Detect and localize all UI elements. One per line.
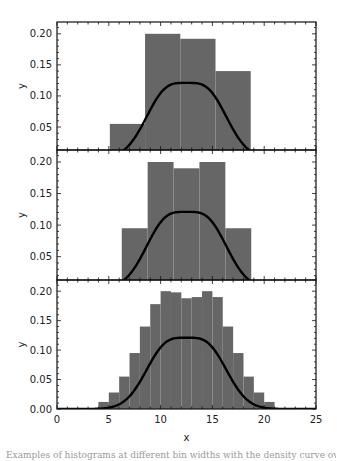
histogram-bar — [171, 292, 181, 411]
x-tick-label: 0 — [54, 414, 60, 425]
histogram-bar — [181, 298, 191, 411]
y-tick-label: 0.05 — [30, 122, 52, 133]
histogram-figure: 0.050.100.150.20y0.050.100.150.20y0.000.… — [0, 0, 337, 461]
y-axis-label: y — [16, 83, 27, 89]
histogram-bar — [216, 71, 251, 152]
x-tick-label: 10 — [154, 414, 167, 425]
histogram-bars — [110, 34, 251, 152]
y-tick-label: 0.15 — [30, 188, 52, 199]
histogram-bar — [225, 228, 251, 282]
y-axis-label: y — [16, 212, 27, 218]
y-tick-label: 0.05 — [30, 251, 52, 262]
histogram-bars — [98, 291, 274, 411]
figure-caption: Examples of histograms at different bin … — [6, 450, 336, 461]
histogram-bar — [119, 377, 129, 411]
histogram-bar — [202, 291, 212, 411]
y-tick-label: 0.20 — [30, 156, 52, 167]
histogram-bar — [130, 353, 140, 411]
histogram-bar — [122, 228, 148, 282]
histogram-bar — [98, 402, 108, 411]
y-axis-label: y — [16, 341, 27, 347]
x-axis-label: x — [184, 432, 190, 443]
x-tick-label: 15 — [206, 414, 219, 425]
y-tick-label: 0.10 — [30, 220, 52, 231]
y-tick-label: 0.15 — [30, 315, 52, 326]
y-tick-label: 0.10 — [30, 345, 52, 356]
histogram-bar — [233, 353, 243, 411]
y-tick-label: 0.20 — [30, 28, 52, 39]
histogram-bar — [264, 402, 274, 411]
x-tick-label: 20 — [258, 414, 271, 425]
y-tick-label: 0.20 — [30, 286, 52, 297]
y-tick-label: 0.00 — [30, 404, 52, 415]
histogram-bar — [174, 168, 200, 282]
histogram-bar — [161, 291, 171, 411]
histogram-bar — [192, 297, 202, 411]
y-tick-label: 0.05 — [30, 374, 52, 385]
histogram-bar — [223, 327, 233, 411]
histogram-bar — [243, 377, 253, 411]
histogram-bar — [140, 327, 150, 411]
y-tick-label: 0.15 — [30, 59, 52, 70]
histogram-bar — [150, 304, 160, 411]
histogram-bar — [145, 34, 180, 152]
histogram-bar — [180, 39, 215, 152]
panel-bottom: 0.000.050.100.150.20y0510152025x — [16, 280, 322, 443]
y-tick-label: 0.10 — [30, 90, 52, 101]
histogram-bars — [122, 162, 252, 282]
panel-top: 0.050.100.150.20y — [16, 22, 316, 158]
x-tick-label: 25 — [310, 414, 323, 425]
panel-middle: 0.050.100.150.20y — [16, 150, 316, 288]
x-tick-label: 5 — [106, 414, 112, 425]
